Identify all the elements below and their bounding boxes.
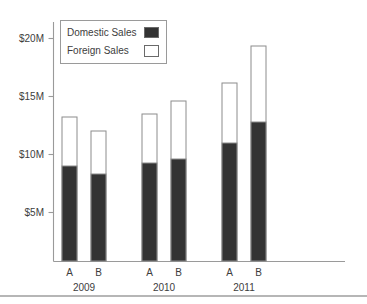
x-label-2009-A: A — [66, 267, 73, 278]
legend-label-foreign: Foreign Sales — [67, 45, 129, 56]
legend-label-domestic: Domestic Sales — [67, 27, 136, 38]
x-label-2009-B: B — [95, 267, 102, 278]
y-tick-label-20M: $20M — [19, 33, 44, 44]
bar-2011-B-domestic-segment[interactable] — [251, 122, 266, 261]
y-tick-label-10M: $10M — [19, 149, 44, 160]
stacked-bar-chart: $20M $15M $10M $5M — [0, 0, 367, 304]
y-tick-label-5M: $5M — [25, 207, 44, 218]
bar-2011-A-domestic-segment[interactable] — [222, 143, 237, 261]
bar-2009-B[interactable] — [91, 131, 106, 261]
x-label-2011-A: A — [226, 267, 233, 278]
bar-2009-A[interactable] — [62, 117, 77, 261]
x-label-2011-B: B — [255, 267, 262, 278]
legend-swatch-foreign-icon — [145, 46, 159, 57]
legend-swatch-domestic-icon — [145, 28, 159, 38]
bar-2010-B[interactable] — [171, 101, 186, 261]
y-tick-label-15M: $15M — [19, 91, 44, 102]
x-label-2010-A: A — [146, 267, 153, 278]
bar-2010-B-domestic-segment[interactable] — [171, 159, 186, 261]
bar-2011-B[interactable] — [251, 46, 266, 261]
x-group-label-2009: 2009 — [73, 282, 96, 293]
bar-2011-A[interactable] — [222, 83, 237, 261]
bar-2010-A[interactable] — [142, 114, 157, 261]
x-label-2010-B: B — [175, 267, 182, 278]
legend: Domestic Sales Foreign Sales — [61, 21, 167, 64]
x-group-label-2011: 2011 — [233, 282, 255, 293]
bar-2009-B-domestic-segment[interactable] — [91, 174, 106, 261]
bar-2009-A-domestic-segment[interactable] — [62, 166, 77, 261]
x-group-label-2010: 2010 — [153, 282, 176, 293]
chart-canvas: $20M $15M $10M $5M — [0, 0, 367, 304]
bar-2010-A-domestic-segment[interactable] — [142, 163, 157, 261]
